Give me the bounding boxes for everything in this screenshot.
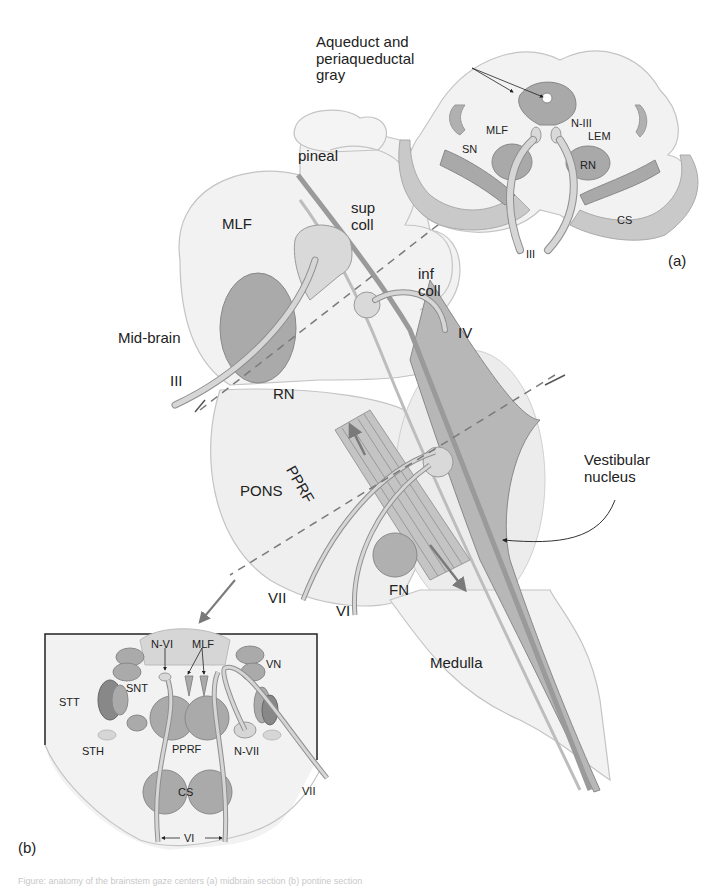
label-sup-coll: sup coll [351, 200, 375, 233]
label-midbrain: Mid-brain [118, 330, 181, 347]
callout-aqueduct: Aqueduct and periaqueductal gray [316, 34, 414, 84]
label-rn: RN [273, 386, 295, 403]
label-fn: FN [389, 582, 409, 599]
inset-a-midbrain-section [399, 51, 698, 250]
abducens-nucleus [423, 447, 453, 477]
label-inf: inf [418, 266, 441, 283]
inset-b-pontine-section [45, 629, 327, 850]
label-nucleus: nucleus [584, 469, 650, 486]
label-inf-coll: inf coll [418, 266, 441, 299]
panel-label-a: (a) [668, 253, 686, 270]
inset-b-label-cs: CS [178, 786, 193, 798]
inset-b-label-sth: STH [82, 745, 104, 757]
inset-a-label-nerve-iii: III [526, 248, 535, 260]
label-medulla: Medulla [430, 655, 483, 672]
inset-b-label-pprf: PPRF [172, 743, 201, 755]
inset-b-label-snt: SNT [126, 682, 148, 694]
label-pons: PONS [240, 483, 283, 500]
inset-b-label-stt: STT [59, 696, 80, 708]
inset-b-label-nerve-vi: VI [184, 832, 194, 844]
label-vestibular-nucleus: Vestibular nucleus [584, 452, 650, 485]
facial-nucleus [373, 533, 417, 577]
inset-a-label-sn: SN [462, 143, 477, 155]
label-nerve-vii: VII [268, 590, 286, 607]
label-vestibular: Vestibular [584, 452, 650, 469]
brainstem-diagram [0, 0, 720, 895]
label-pineal: pineal [298, 148, 338, 165]
label-inf-coll-2: coll [418, 283, 441, 300]
callout-line-2: periaqueductal [316, 51, 414, 68]
inset-b-label-vn: VN [266, 658, 281, 670]
callout-line-3: gray [316, 67, 414, 84]
inset-b-label-mlf: MLF [192, 638, 214, 650]
red-nucleus [220, 273, 296, 383]
inset-a-label-cs: CS [617, 214, 632, 226]
label-sup-coll-2: coll [351, 217, 375, 234]
label-sup: sup [351, 200, 375, 217]
label-nerve-iii: III [170, 373, 183, 390]
figure-caption: Figure: anatomy of the brainstem gaze ce… [18, 876, 362, 886]
inset-a-label-n3: N-III [571, 117, 592, 129]
inset-b-label-nerve-vii: VII [302, 785, 315, 797]
label-mlf: MLF [222, 216, 252, 233]
inset-b-label-n7: N-VII [234, 745, 259, 757]
inset-b-label-n6: N-VI [151, 638, 173, 650]
callout-line-1: Aqueduct and [316, 34, 414, 51]
panel-label-b: (b) [18, 840, 36, 857]
label-nerve-iv: IV [458, 325, 472, 342]
inset-a-label-mlf: MLF [486, 124, 508, 136]
inset-a-label-lem: LEM [588, 130, 611, 142]
inset-a-label-rn: RN [580, 159, 596, 171]
trochlear-nucleus [354, 292, 380, 318]
label-nerve-vi: VI [336, 603, 350, 620]
